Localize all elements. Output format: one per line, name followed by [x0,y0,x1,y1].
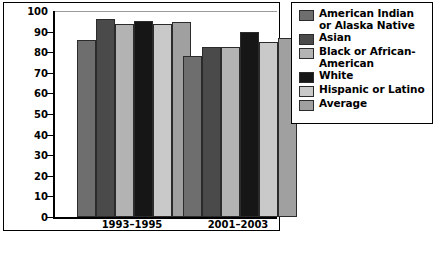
y-tick-label: 90 [34,26,48,37]
bar[interactable] [153,24,172,217]
y-tick-label: 20 [34,170,48,181]
y-tick-mark [47,196,54,197]
y-tick-label: 70 [34,67,48,78]
bar[interactable] [259,42,278,217]
x-axis-category-label: 1993–1995 [102,219,163,230]
legend-swatch-icon [299,34,314,45]
legend-swatch-icon [299,86,314,97]
y-tick-label: 80 [34,47,48,58]
bar-group [77,11,191,217]
y-tick-mark [47,176,54,177]
y-tick-label: 50 [34,109,48,120]
legend-item-label: Hispanic or Latino [319,84,425,96]
legend-swatch-icon [299,72,314,83]
legend-item[interactable]: American Indian or Alaska Native [299,8,428,31]
legend-item[interactable]: Average [299,98,428,111]
y-tick-label: 10 [34,191,48,202]
legend-item-label: White [319,70,353,82]
legend-item[interactable]: Hispanic or Latino [299,84,428,97]
y-tick-mark [47,114,54,115]
plot-area [53,11,277,219]
bar[interactable] [221,47,240,217]
y-axis-tick-labels: 1009080706050403020100 [22,11,48,217]
chart-root: Percentage 1009080706050403020100 1993–1… [0,0,436,261]
bar[interactable] [183,56,202,217]
y-tick-mark [47,217,54,218]
y-tick-mark [47,52,54,53]
legend-item-label: Asian [319,32,351,44]
legend-swatch-icon [299,10,314,21]
bar[interactable] [240,32,259,217]
y-tick-mark [47,32,54,33]
y-tick-mark [47,73,54,74]
x-axis-category-label: 2001–2003 [208,219,269,230]
bar[interactable] [96,19,115,217]
bar[interactable] [134,21,153,217]
y-tick-label: 60 [34,88,48,99]
y-tick-mark [47,135,54,136]
legend-item-label: Average [319,98,367,110]
bar[interactable] [77,40,96,217]
plot-frame: Percentage 1009080706050403020100 1993–1… [3,2,280,231]
bar-group [183,11,297,217]
y-tick-label: 100 [27,6,48,17]
legend-item[interactable]: White [299,70,428,83]
legend-item[interactable]: Asian [299,32,428,45]
bar[interactable] [202,47,221,217]
chart-legend: American Indian or Alaska NativeAsianBla… [291,2,433,124]
y-tick-mark [47,155,54,156]
y-tick-label: 40 [34,129,48,140]
bar[interactable] [115,24,134,217]
legend-swatch-icon [299,100,314,111]
legend-item-label: American Indian or Alaska Native [319,8,428,31]
y-tick-label: 30 [34,150,48,161]
legend-item[interactable]: Black or African-American [299,46,428,69]
legend-item-label: Black or African-American [319,46,428,69]
y-tick-mark [47,93,54,94]
legend-swatch-icon [299,48,314,59]
